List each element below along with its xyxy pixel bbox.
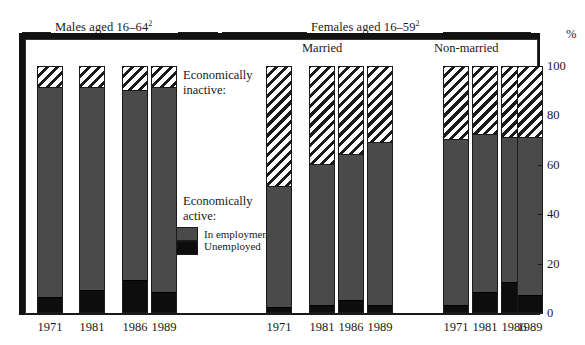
- x-axis-label-8: 1971: [444, 320, 469, 335]
- bar-segment-employed: [267, 186, 291, 312]
- annotation-inactive-line2: inactive:: [183, 83, 252, 98]
- y-axis-tick-40: [538, 214, 543, 215]
- bar-segment-employed: [152, 87, 176, 312]
- economic-activity-chart: Males aged 16–642 Females aged 16–592 % …: [0, 0, 585, 345]
- bar-segment-employed: [368, 142, 392, 312]
- legend-label-unemployed: Unemployed: [204, 240, 261, 252]
- x-axis-label-9: 1981: [473, 320, 498, 335]
- bar-segment-employed: [80, 87, 104, 312]
- bar-segment-employed: [518, 137, 542, 312]
- bar-segment-employed: [473, 134, 497, 312]
- group-heading-females-footnote: 2: [416, 19, 420, 28]
- bar-m1981: [79, 66, 105, 313]
- y-axis-label-100: 100: [547, 59, 566, 74]
- bar-segment-unemployed: [339, 300, 363, 312]
- bar-segment-unemployed: [310, 305, 334, 312]
- legend-label-employed: In employment3: [204, 226, 275, 240]
- bar-segment-employed: [444, 139, 468, 312]
- legend-label-employed-text: In employment: [204, 228, 271, 240]
- annotation-active-line1: Economically: [183, 194, 252, 209]
- bar-m1989: [151, 66, 177, 313]
- subgroup-heading-married: Married: [302, 41, 342, 56]
- x-axis-label-7: 1989: [368, 320, 393, 335]
- x-axis-label-11: 1989: [518, 320, 543, 335]
- bar-fn1981: [472, 66, 498, 313]
- x-axis-label-3: 1989: [152, 320, 177, 335]
- bar-m1971: [37, 66, 63, 313]
- y-axis-tick-80: [538, 115, 543, 116]
- y-axis-unit-label: %: [566, 27, 576, 42]
- y-axis-tick-100: [538, 66, 543, 67]
- y-axis-label-80: 80: [547, 108, 560, 123]
- bar-segment-unemployed: [444, 305, 468, 312]
- bar-fm1989: [367, 66, 393, 313]
- x-axis-label-0: 1971: [38, 320, 63, 335]
- y-axis-label-60: 60: [547, 157, 560, 172]
- bar-segment-unemployed: [80, 290, 104, 312]
- bar-segment-unemployed: [473, 292, 497, 312]
- x-axis-label-4: 1971: [267, 320, 292, 335]
- annotation-active-line2: active:: [183, 209, 252, 224]
- bar-fm1986: [338, 66, 364, 313]
- bar-segment-unemployed: [123, 280, 147, 312]
- annotation-active: Economically active:: [183, 194, 252, 224]
- bar-segment-employed: [339, 154, 363, 312]
- subgroup-heading-nonmarried: Non-married: [434, 41, 499, 56]
- bar-fn1989: [517, 66, 543, 313]
- bar-segment-employed: [123, 90, 147, 312]
- annotation-inactive-line1: Economically: [183, 68, 252, 83]
- bar-fm1971: [266, 66, 292, 313]
- y-axis-label-0: 0: [547, 306, 553, 321]
- annotation-inactive: Economically inactive:: [183, 68, 252, 98]
- bar-segment-unemployed: [518, 295, 542, 312]
- bar-segment-unemployed: [267, 307, 291, 312]
- bar-m1986: [122, 66, 148, 313]
- y-axis-tick-20: [538, 264, 543, 265]
- group-heading-males-footnote: 2: [148, 19, 152, 28]
- bar-segment-unemployed: [38, 297, 62, 312]
- bar-fn1971: [443, 66, 469, 313]
- bar-segment-employed: [310, 164, 334, 312]
- y-axis-tick-0: [538, 313, 543, 314]
- y-axis-label-20: 20: [547, 256, 560, 271]
- x-axis-label-6: 1986: [339, 320, 364, 335]
- bar-segment-unemployed: [368, 305, 392, 312]
- y-axis-label-40: 40: [547, 207, 560, 222]
- bar-fm1981: [309, 66, 335, 313]
- y-axis-tick-60: [538, 165, 543, 166]
- x-axis-label-1: 1981: [80, 320, 105, 335]
- plot-area: Married Non-married Economically inactiv…: [26, 40, 537, 314]
- bar-segment-unemployed: [152, 292, 176, 312]
- x-axis-baseline: [26, 313, 537, 315]
- x-axis-label-5: 1981: [310, 320, 335, 335]
- bar-segment-employed: [38, 87, 62, 312]
- x-axis-label-2: 1986: [123, 320, 148, 335]
